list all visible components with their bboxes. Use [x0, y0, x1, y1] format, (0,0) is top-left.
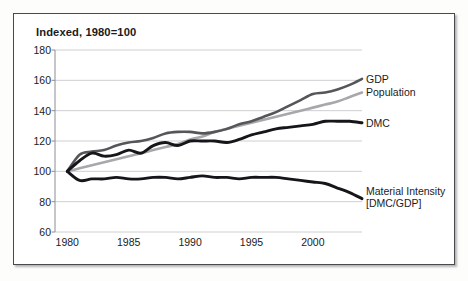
y-tick-label: 120 — [19, 135, 51, 147]
series-line-gdp — [67, 79, 362, 172]
x-tick-label: 1995 — [240, 236, 263, 248]
y-axis-tick-labels: 1801601401201008060 — [16, 50, 51, 232]
series-line-material-intensity-dmc-gdp — [67, 171, 362, 198]
x-axis-tick-labels: 19801985199019952000 — [55, 236, 362, 252]
chart-title: Indexed, 1980=100 — [36, 26, 136, 38]
figure-page: Indexed, 1980=100 1801601401201008060 19… — [0, 0, 468, 281]
plot-area — [55, 50, 362, 232]
y-tick-label: 60 — [19, 226, 51, 238]
x-tick-label: 1985 — [117, 236, 140, 248]
chart-svg — [55, 50, 362, 232]
y-tick-label: 100 — [19, 165, 51, 177]
series-paths — [67, 79, 362, 199]
x-tick-label: 1990 — [178, 236, 201, 248]
y-tick-label: 160 — [19, 74, 51, 86]
x-tick-label: 2000 — [301, 236, 324, 248]
x-tick-label: 1980 — [56, 236, 79, 248]
y-tick-label: 180 — [19, 44, 51, 56]
y-tick-label: 80 — [19, 196, 51, 208]
y-tick-label: 140 — [19, 105, 51, 117]
